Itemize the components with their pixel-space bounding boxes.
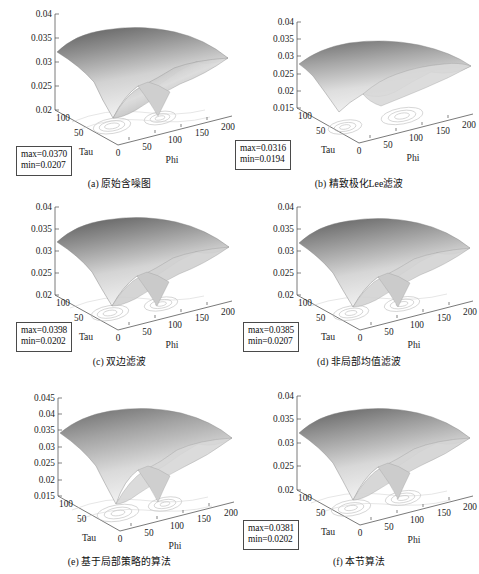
xtick-f-4: 200 [463,502,477,512]
xtick-a-3: 150 [195,128,209,138]
panel-d-plot: 0.04 0.035 0.03 0.025 0.02 [239,194,479,380]
ztick-b-3: 0.03 [278,51,295,61]
axis-title-tau-b: Tau [321,144,335,155]
stats-min-b: min=0.0194 [240,154,286,165]
axis-title-phi-c: Phi [166,339,179,350]
caption-b: (b) 精致极化Lee滤波 [239,176,479,190]
ztick-a-0: 0.02 [36,105,53,115]
ztick-e-3: 0.03 [39,442,56,452]
axis-title-phi-d: Phi [408,339,421,350]
ztick-c-3: 0.035 [31,224,52,234]
xtick-e-4: 200 [224,508,238,518]
panel-d: 0.04 0.035 0.03 0.025 0.02 [239,194,479,380]
xtick-b-3: 150 [436,126,450,136]
ztick-c-4: 0.04 [36,202,53,212]
caption-c: (c) 双边滤波 [0,354,239,368]
ztick-c-0: 0.02 [36,290,53,300]
stats-box-c: max=0.0398 min=0.0202 [16,322,72,352]
xtick-d-4: 200 [463,307,477,317]
xtick-c-2: 100 [168,320,182,330]
ztick-f-2: 0.03 [278,438,295,448]
xtick-e-0: 0 [118,534,123,544]
xtick-d-3: 150 [437,313,451,323]
panel-c: 0.04 0.035 0.03 0.025 0.02 [0,194,239,380]
axis-title-phi-a: Phi [166,154,179,165]
stats-box-f: max=0.0381 min=0.0202 [243,520,299,550]
ztick-b-5: 0.04 [278,17,295,27]
stats-box-d: max=0.0385 min=0.0207 [243,322,299,352]
ztick-d-4: 0.04 [278,202,295,212]
stats-min-d: min=0.0207 [248,336,294,347]
xtick-b-4: 200 [462,120,476,130]
axis-title-tau-e: Tau [82,532,96,543]
ytick-b-1: 50 [316,126,326,136]
xtick-b-2: 100 [409,133,423,143]
xtick-f-3: 150 [437,508,451,518]
xtick-e-3: 150 [197,514,211,524]
stats-max-f: max=0.0381 [248,523,294,534]
axis-title-phi-f: Phi [408,534,421,545]
stats-box-a: max=0.0370 min=0.0207 [16,146,72,176]
xtick-a-1: 50 [142,142,152,152]
surface-e [60,408,232,504]
ytick-c-1: 50 [74,313,84,323]
xtick-e-2: 100 [170,521,184,531]
xtick-d-1: 50 [384,327,394,337]
stats-max-c: max=0.0398 [21,325,67,336]
xtick-f-2: 100 [410,515,424,525]
stats-max-d: max=0.0385 [248,325,294,336]
ytick-c-0: 100 [56,298,70,308]
ztick-b-2: 0.025 [273,69,294,79]
ytick-b-0: 100 [298,111,312,121]
xtick-d-0: 0 [358,333,363,343]
ytick-d-1: 50 [316,313,326,323]
ztick-e-1: 0.02 [39,475,56,485]
ztick-a-3: 0.035 [31,33,52,43]
ztick-f-3: 0.035 [273,414,294,424]
xtick-c-4: 200 [221,307,235,317]
panel-c-plot: 0.04 0.035 0.03 0.025 0.02 [0,194,239,380]
ztick-e-5: 0.04 [39,409,56,419]
caption-a: (a) 原始含噪图 [0,176,239,190]
ztick-b-0: 0.015 [273,103,294,113]
stats-min-f: min=0.0202 [248,534,294,545]
stats-min-c: min=0.0202 [21,336,67,347]
xtick-b-0: 0 [357,146,362,156]
ztick-a-1: 0.025 [31,81,52,91]
xtick-a-0: 0 [116,148,121,158]
stats-max-b: max=0.0316 [240,143,286,154]
panel-e-plot: 0.045 0.04 0.035 0.03 0.025 0.02 0.015 [0,380,239,574]
xtick-b-1: 50 [383,140,393,150]
ztick-a-4: 0.04 [36,9,53,19]
ztick-d-1: 0.025 [273,268,294,278]
axis-title-tau-a: Tau [79,146,93,157]
panel-f: 0.04 0.035 0.03 0.025 0.02 [239,380,479,574]
six-panel-surface-figure: 0.04 0.035 0.03 0.025 0.02 [0,0,479,574]
ytick-e-0: 100 [59,499,73,509]
ytick-e-1: 50 [77,514,87,524]
ytick-d-0: 100 [298,298,312,308]
ztick-d-2: 0.03 [278,246,295,256]
ztick-e-0: 0.015 [34,491,55,501]
ztick-e-6: 0.045 [34,393,55,403]
xtick-d-2: 100 [410,320,424,330]
xtick-c-3: 150 [195,313,209,323]
ztick-c-2: 0.03 [36,246,53,256]
xtick-a-2: 100 [168,135,182,145]
xtick-f-1: 50 [384,522,394,532]
ztick-e-4: 0.035 [34,425,55,435]
panel-a: 0.04 0.035 0.03 0.025 0.02 [0,0,239,194]
ztick-d-0: 0.02 [278,290,295,300]
ztick-d-3: 0.035 [273,224,294,234]
ztick-c-1: 0.025 [31,268,52,278]
ztick-a-2: 0.03 [36,57,53,67]
ytick-a-0: 100 [56,113,70,123]
axis-title-phi-e: Phi [169,540,182,551]
axis-title-tau-c: Tau [79,331,93,342]
ytick-a-1: 50 [74,128,84,138]
stats-max-a: max=0.0370 [21,149,67,160]
panel-e: 0.045 0.04 0.035 0.03 0.025 0.02 0.015 [0,380,239,574]
caption-d: (d) 非局部均值滤波 [239,354,479,368]
caption-e: (e) 基于局部策略的算法 [0,554,239,568]
ztick-b-1: 0.02 [278,86,295,96]
